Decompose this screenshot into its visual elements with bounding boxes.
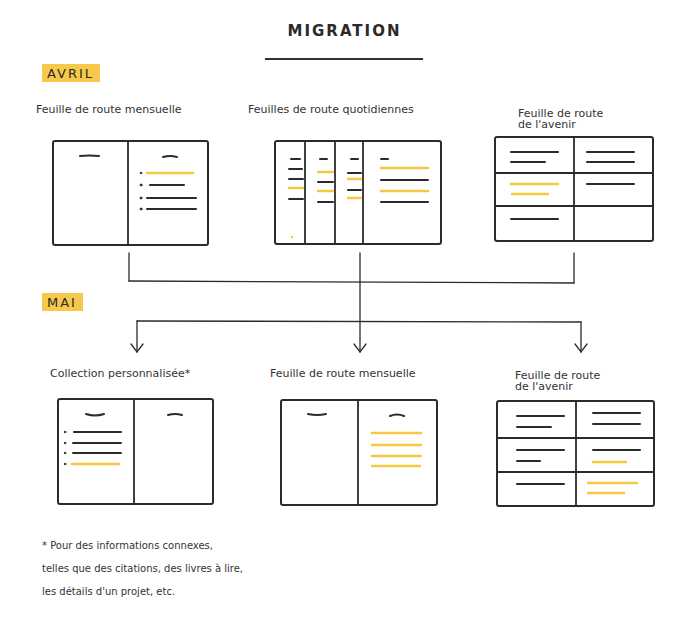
footnote-line-1: * Pour des informations connexes, (42, 540, 213, 551)
footnote-line-3: les détails d'un projet, etc. (42, 586, 175, 597)
may-collection-spread (58, 399, 213, 504)
may-monthly-log-spread (281, 400, 437, 505)
april-monthly-log-spread (53, 141, 208, 245)
may-future-log-spread (497, 401, 654, 506)
april-daily-logs-spread (275, 141, 441, 244)
migration-connectors (129, 253, 587, 352)
migration-diagram (0, 0, 689, 632)
footnote-line-2: telles que des citations, des livres à l… (42, 563, 243, 574)
april-future-log-spread (495, 137, 653, 241)
